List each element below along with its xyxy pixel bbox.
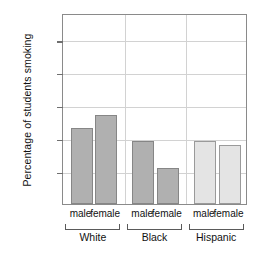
group-label-black: Black bbox=[127, 231, 182, 243]
group-label-hispanic: Hispanic bbox=[189, 231, 244, 243]
bar-white-female bbox=[95, 115, 117, 204]
gridline bbox=[63, 107, 246, 108]
y-axis-title: Percentage of students smoking bbox=[21, 25, 33, 195]
bracket-hispanic bbox=[189, 224, 244, 230]
category-label-5: female bbox=[207, 208, 251, 219]
group-labels: WhiteBlackHispanic bbox=[62, 231, 247, 245]
bar-black-female bbox=[157, 168, 179, 204]
plot-area bbox=[62, 14, 247, 205]
bracket-black bbox=[127, 224, 182, 230]
bar-black-male bbox=[132, 141, 154, 204]
bar-hispanic-female bbox=[219, 145, 241, 204]
bracket-white bbox=[65, 224, 120, 230]
gridline bbox=[63, 74, 246, 75]
y-tick-mark bbox=[57, 173, 63, 174]
gridline bbox=[63, 41, 246, 42]
bar-white-male bbox=[71, 128, 93, 204]
group-separator bbox=[125, 15, 126, 204]
group-label-white: White bbox=[65, 231, 120, 243]
category-labels: malefemalemalefemalemalefemale bbox=[62, 208, 247, 222]
y-tick-mark bbox=[57, 41, 63, 42]
bar-hispanic-male bbox=[194, 141, 216, 204]
y-tick-mark bbox=[57, 140, 63, 141]
y-tick-mark bbox=[57, 74, 63, 75]
bar-chart: Percentage of students smoking 102030405… bbox=[0, 0, 271, 254]
group-separator bbox=[186, 15, 187, 204]
y-tick-mark bbox=[57, 107, 63, 108]
